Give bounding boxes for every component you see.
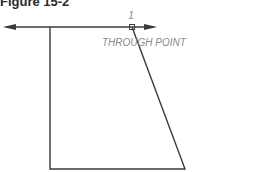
trapezoid-shape [50,27,185,169]
point-number-label: 1 [128,10,134,21]
right-arrow-icon [144,24,157,30]
left-arrow-icon [3,24,16,30]
diagram-canvas: 1 THROUGH POINT [0,0,259,172]
through-point-label: THROUGH POINT [102,37,187,48]
